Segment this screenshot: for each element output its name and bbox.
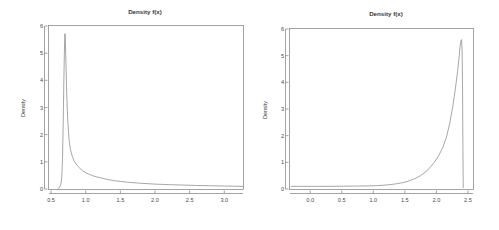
right-x-ticks: 0.00.51.01.52.02.5: [306, 191, 472, 203]
left-density-plot-panel: Density f(x) 0123456 0.51.01.52.02.53.0 …: [0, 0, 250, 230]
y-tick-label: 4: [40, 77, 43, 83]
x-tick-label: 1.0: [369, 197, 377, 203]
x-tick-label: 2.5: [186, 197, 194, 203]
y-tick-label: 2: [40, 132, 43, 138]
right-plot-frame: [289, 29, 473, 190]
x-tick-label: 2.0: [432, 197, 440, 203]
y-tick-label: 3: [40, 105, 43, 111]
x-tick-label: 1.5: [400, 197, 408, 203]
left-x-ticks: 0.51.01.52.02.53.0: [47, 191, 228, 203]
y-tick-label: 1: [280, 159, 283, 165]
y-tick-label: 2: [280, 133, 283, 139]
right-density-plot-panel: Density f(x) 0123456 0.00.51.01.52.02.5 …: [250, 0, 499, 230]
density-plots-figure: Density f(x) 0123456 0.51.01.52.02.53.0 …: [0, 0, 499, 230]
y-tick-label: 3: [280, 106, 283, 112]
left-y-ticks: 0123456: [40, 23, 48, 192]
left-plot-ylabel: Density: [20, 99, 26, 117]
left-plot-x-axis: 0.51.01.52.02.53.0: [47, 191, 243, 203]
y-tick-label: 6: [280, 26, 283, 32]
y-tick-label: 0: [280, 186, 283, 192]
right-plot-svg: Density f(x) 0123456 0.00.51.01.52.02.5 …: [250, 0, 499, 230]
x-tick-label: 0.5: [337, 197, 345, 203]
x-tick-label: 1.5: [116, 197, 124, 203]
right-plot-x-axis: 0.00.51.01.52.02.5: [290, 191, 473, 203]
right-y-ticks: 0123456: [280, 26, 288, 192]
left-plot-y-axis: 0123456: [40, 23, 48, 192]
left-plot-svg: Density f(x) 0123456 0.51.01.52.02.53.0 …: [0, 0, 250, 230]
y-tick-label: 5: [280, 53, 283, 59]
x-tick-label: 2.5: [464, 197, 472, 203]
left-plot-title: Density f(x): [128, 8, 162, 15]
right-plot-y-axis: 0123456: [280, 26, 288, 192]
x-tick-label: 0.0: [306, 197, 314, 203]
x-tick-label: 2.0: [151, 197, 159, 203]
y-tick-label: 5: [40, 50, 43, 56]
y-tick-label: 6: [40, 23, 43, 29]
right-density-curve: [291, 40, 463, 188]
x-tick-label: 3.0: [220, 197, 228, 203]
y-tick-label: 0: [40, 186, 43, 192]
x-tick-label: 0.5: [47, 197, 55, 203]
right-plot-ylabel: Density: [262, 101, 268, 119]
left-density-curve: [58, 34, 243, 189]
y-tick-label: 1: [40, 159, 43, 165]
left-plot-frame: [49, 26, 244, 190]
right-plot-title: Density f(x): [369, 10, 403, 17]
y-tick-label: 4: [280, 79, 283, 85]
x-tick-label: 1.0: [82, 197, 90, 203]
